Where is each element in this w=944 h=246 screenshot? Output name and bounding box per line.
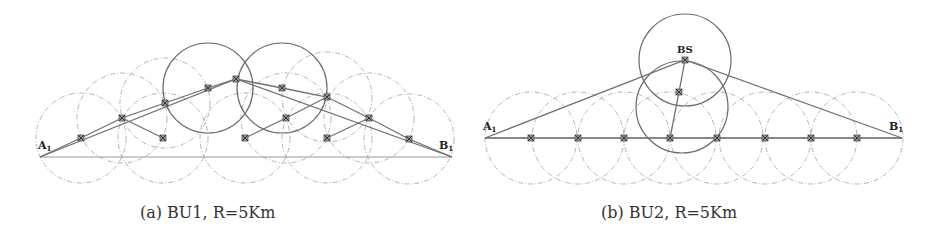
node-marker-icon	[283, 115, 289, 121]
node-marker-icon	[667, 135, 673, 141]
route-path	[40, 79, 452, 157]
label-b1: B1	[889, 120, 903, 134]
node-marker-icon	[528, 135, 534, 141]
node-marker-icon	[279, 85, 285, 91]
route-path	[670, 60, 685, 138]
panel-bu2: A1B1BS	[482, 14, 903, 184]
label-b1: B1	[439, 139, 453, 153]
route-path	[40, 79, 452, 157]
node-marker-icon	[682, 57, 688, 63]
node-marker-icon	[205, 85, 211, 91]
panel-bu1: A1B1	[36, 43, 454, 184]
node-marker-icon	[575, 135, 581, 141]
node-marker-icon	[162, 100, 168, 106]
node-marker-icon	[242, 135, 248, 141]
node-marker-icon	[621, 135, 627, 141]
label-a1: A1	[37, 139, 52, 153]
caption-bu2: (b) BU2, R=5Km	[601, 203, 737, 222]
node-marker-icon	[324, 94, 330, 100]
node-marker-icon	[676, 89, 682, 95]
node-marker-icon	[119, 115, 125, 121]
node-marker-icon	[406, 136, 412, 142]
node-marker-icon	[160, 135, 166, 141]
node-marker-icon	[233, 76, 239, 82]
node-marker-icon	[854, 135, 860, 141]
node-marker-icon	[714, 135, 720, 141]
node-marker-icon	[324, 135, 330, 141]
label-a1: A1	[482, 120, 497, 134]
node-marker-icon	[762, 135, 768, 141]
node-marker-icon	[366, 115, 372, 121]
caption-bu1: (a) BU1, R=5Km	[140, 203, 275, 222]
node-marker-icon	[78, 135, 84, 141]
label-bs: BS	[677, 44, 693, 55]
node-marker-icon	[808, 135, 814, 141]
diagram-canvas: A1B1 A1B1BS	[0, 0, 944, 200]
route-path	[327, 118, 369, 138]
